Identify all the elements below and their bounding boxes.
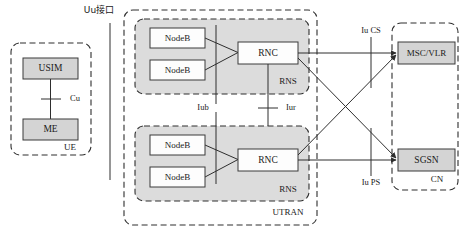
nodeb-bottom-1-label: NodeB: [165, 140, 191, 150]
iub-label: Iub: [197, 102, 208, 112]
usim-label: USIM: [39, 63, 63, 73]
sgsn-label: SGSN: [414, 155, 438, 165]
iu-cs-label: Iu CS: [361, 25, 381, 35]
msc-vlr-label: MSC/VLR: [407, 48, 447, 58]
uu-interface-label: Uu接口: [84, 4, 114, 15]
iu-cs-bottom-link: [298, 55, 396, 155]
rns-bottom-label: RNS: [279, 184, 297, 194]
cn-region-label: CN: [431, 174, 444, 184]
rnc-top-label: RNC: [258, 48, 278, 58]
diagram-canvas: USIM Cu ME UE Uu接口 UTRAN NodeB NodeB RNC…: [0, 0, 467, 235]
iu-ps-top-link: [298, 58, 396, 158]
nodeb-top-1-label: NodeB: [165, 33, 191, 43]
iur-label: Iur: [286, 102, 296, 112]
cu-label: Cu: [70, 93, 81, 103]
nodeb-top-2-label: NodeB: [165, 65, 191, 75]
rnc-bottom-label: RNC: [258, 155, 278, 165]
umts-architecture-diagram: USIM Cu ME UE Uu接口 UTRAN NodeB NodeB RNC…: [0, 0, 467, 235]
rns-top-label: RNS: [279, 76, 297, 86]
ue-region-label: UE: [64, 142, 76, 152]
utran-region-label: UTRAN: [273, 207, 304, 217]
nodeb-bottom-2-label: NodeB: [165, 172, 191, 182]
me-label: ME: [43, 124, 57, 134]
iu-ps-label: Iu PS: [362, 177, 381, 187]
